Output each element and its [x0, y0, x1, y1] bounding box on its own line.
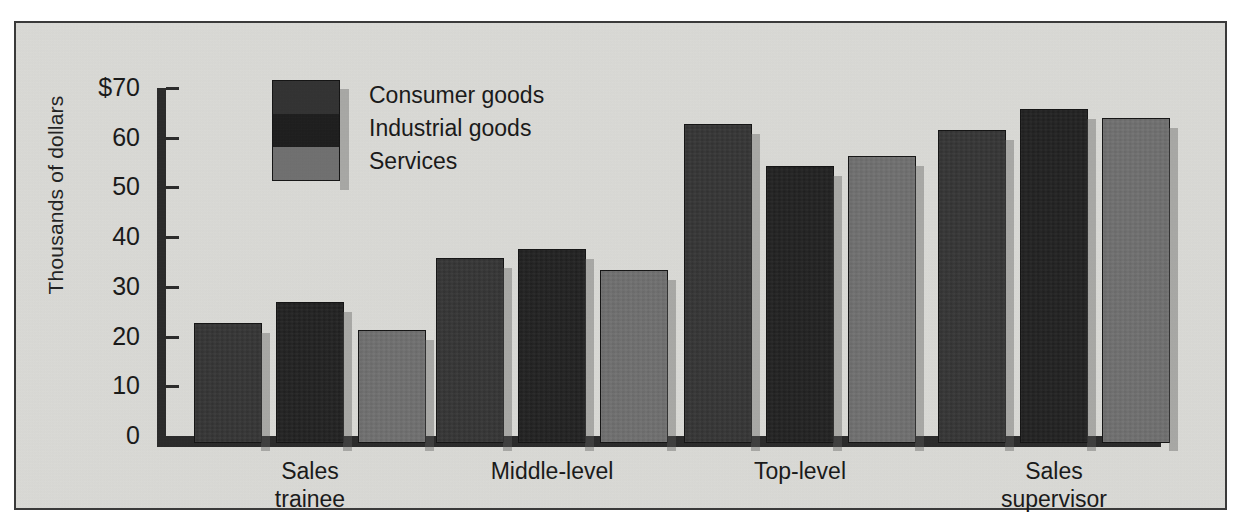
x-category-label: Sales trainee [180, 457, 440, 513]
bar-shadow [585, 259, 594, 451]
y-tick-label: 10 [80, 373, 140, 398]
legend-swatch [273, 81, 339, 114]
bar [358, 330, 426, 443]
legend-swatch [273, 114, 339, 147]
bar-shadow [343, 312, 352, 451]
bar-face [849, 157, 915, 442]
bar-shadow [833, 176, 842, 451]
bar-shadow [751, 134, 760, 451]
y-tick-label: $70 [80, 75, 140, 100]
bar [1102, 118, 1170, 443]
y-tick-label: 20 [80, 324, 140, 349]
bar-face [601, 271, 667, 442]
bar-face [277, 303, 343, 442]
bar [766, 166, 834, 443]
bar-shadow [261, 333, 270, 451]
chart-plate: Thousands of dollars $706050403020100 Co… [14, 21, 1227, 510]
x-category-label: Middle-level [422, 457, 682, 485]
legend-label: Consumer goods [369, 84, 544, 107]
bar-face [359, 331, 425, 442]
bar [518, 249, 586, 443]
bar-shadow [503, 268, 512, 451]
bar-face [939, 131, 1005, 442]
x-category-label: Top-level [670, 457, 930, 485]
bar-face [437, 259, 503, 442]
y-tick-label: 50 [80, 174, 140, 199]
bar-shadow [1087, 119, 1096, 451]
bar [600, 270, 668, 443]
bar-face [1103, 119, 1169, 442]
bar-face [195, 324, 261, 442]
bar-group [684, 88, 926, 443]
legend-label: Services [369, 150, 457, 173]
bar [848, 156, 916, 443]
y-axis-spine [157, 88, 166, 443]
bar-group [938, 88, 1180, 443]
bar-shadow [667, 280, 676, 451]
y-tick-label: 40 [80, 224, 140, 249]
bar-shadow [1005, 140, 1014, 451]
bar [684, 124, 752, 443]
legend-swatch [273, 147, 339, 180]
bar [938, 130, 1006, 443]
x-category-label: Sales supervisor [924, 457, 1184, 513]
bar-face [1021, 110, 1087, 442]
bar-face [519, 250, 585, 442]
bar [276, 302, 344, 443]
bar-shadow [1169, 128, 1178, 451]
bar-group [436, 88, 678, 443]
bar-face [685, 125, 751, 442]
legend-shadow [340, 89, 349, 190]
legend-swatch-block [272, 80, 340, 181]
y-tick-label: 30 [80, 274, 140, 299]
y-axis-tick-labels: $706050403020100 [76, 23, 140, 508]
y-axis-title: Thousands of dollars [44, 15, 68, 375]
y-tick-label: 0 [80, 423, 140, 448]
bar [1020, 109, 1088, 443]
bar-shadow [425, 340, 434, 451]
bar [194, 323, 262, 443]
bar-shadow [915, 166, 924, 451]
y-tick-label: 60 [80, 125, 140, 150]
legend-label: Industrial goods [369, 117, 531, 140]
chart-figure: Thousands of dollars $706050403020100 Co… [0, 0, 1241, 528]
bar-face [767, 167, 833, 442]
bar [436, 258, 504, 443]
